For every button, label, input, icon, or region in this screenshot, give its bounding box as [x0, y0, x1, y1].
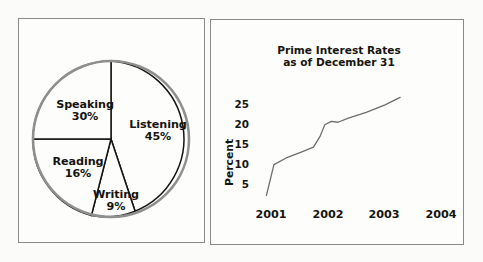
line-chart-panel: Prime Interest Rates as of December 31 P… [210, 19, 464, 245]
pie-chart-panel: Speaking 30% Listening 45% Reading 16% W… [18, 18, 205, 243]
pie-label-writing: Writing 9% [81, 189, 151, 214]
pie-label-writing-name: Writing [93, 188, 139, 201]
pie-label-listening: Listening 45% [116, 119, 200, 144]
pie-label-reading-name: Reading [53, 155, 104, 168]
series-line-prime-interest-rate [266, 97, 400, 195]
figure-canvas: Speaking 30% Listening 45% Reading 16% W… [0, 0, 483, 262]
pie-label-reading: Reading 16% [37, 156, 119, 181]
pie-label-speaking-name: Speaking [56, 98, 114, 111]
pie-label-reading-value: 16% [37, 168, 119, 180]
pie-label-listening-name: Listening [129, 118, 186, 131]
pie-label-listening-value: 45% [116, 131, 200, 143]
pie-label-writing-value: 9% [81, 201, 151, 213]
line-chart-graphic [211, 20, 465, 246]
